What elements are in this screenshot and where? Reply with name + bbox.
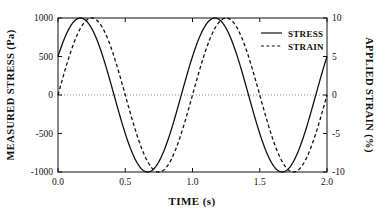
tick-label-left: 500 xyxy=(39,52,54,62)
tick-label-left: -1000 xyxy=(31,167,53,177)
tick-label-right: -5 xyxy=(332,129,340,139)
tick-label-right: -10 xyxy=(332,167,345,177)
tick-label-bottom: 0.0 xyxy=(52,177,64,187)
tick-label-right: 5 xyxy=(332,52,337,62)
y-axis-title: MEASURED STRESS (Pa) xyxy=(5,29,17,160)
y2-axis-title: APPLIED STRAIN (%) xyxy=(363,37,375,153)
tick-label-bottom: 1.0 xyxy=(187,177,199,187)
tick-label-left: 1000 xyxy=(34,13,53,23)
legend-label-stress: STRESS xyxy=(288,29,323,39)
tick-label-bottom: 1.5 xyxy=(254,177,266,187)
tick-label-left: 0 xyxy=(48,90,53,100)
left-axis-tick-labels: 10005000-500-1000 xyxy=(31,13,53,177)
tick-label-bottom: 2.0 xyxy=(321,177,333,187)
tick-label-right: 0 xyxy=(332,90,337,100)
legend-label-strain: STRAIN xyxy=(288,42,324,52)
chart-figure: 10005000-500-1000 1050-5-10 0.00.51.01.5… xyxy=(0,0,378,215)
tick-label-bottom: 0.5 xyxy=(119,177,131,187)
x-axis-title: TIME (s) xyxy=(169,195,216,208)
tick-label-left: -500 xyxy=(36,129,54,139)
bottom-axis-tick-labels: 0.00.51.01.52.0 xyxy=(52,177,333,187)
stress-strain-line-chart: 10005000-500-1000 1050-5-10 0.00.51.01.5… xyxy=(0,0,378,215)
chart-legend: STRESS STRAIN xyxy=(261,29,324,52)
tick-label-right: 10 xyxy=(332,13,342,23)
right-axis-tick-labels: 1050-5-10 xyxy=(332,13,345,177)
